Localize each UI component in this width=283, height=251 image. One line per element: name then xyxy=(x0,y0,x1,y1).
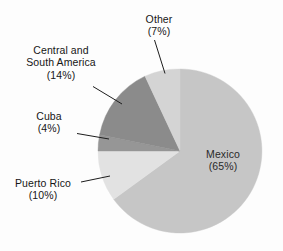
slice-label-mexico-name: Mexico xyxy=(206,148,240,160)
slice-label-central-south-america: Central and South America (14%) xyxy=(10,44,112,81)
slice-label-other-name: Other xyxy=(146,13,173,25)
slice-label-mexico: Mexico (65%) xyxy=(192,148,254,173)
slice-label-mexico-percent: (65%) xyxy=(192,160,254,172)
slice-label-puerto-rico-name: Puerto Rico xyxy=(15,177,71,189)
slice-label-puerto-rico-percent: (10%) xyxy=(2,189,84,201)
slice-label-other-percent: (7%) xyxy=(128,25,190,37)
slice-label-puerto-rico: Puerto Rico (10%) xyxy=(2,177,84,202)
slice-label-cuba: Cuba (4%) xyxy=(16,110,82,135)
slice-label-central-line2: South America xyxy=(10,56,112,68)
slice-label-central-percent: (14%) xyxy=(10,69,112,81)
slice-label-central-line1: Central and xyxy=(33,44,88,56)
leader-line-central-south-america xyxy=(93,87,122,105)
slice-label-cuba-name: Cuba xyxy=(36,110,62,122)
slice-label-cuba-percent: (4%) xyxy=(16,122,82,134)
pie-chart-figure: Other (7%) Central and South America (14… xyxy=(0,0,283,251)
leader-line-other xyxy=(155,40,166,74)
slice-label-other: Other (7%) xyxy=(128,13,190,38)
